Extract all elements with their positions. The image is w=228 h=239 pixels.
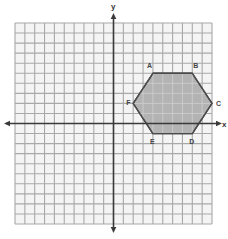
coordinate-plane: x y ABCDEF [0, 0, 228, 239]
vertex-label-d: D [189, 138, 194, 145]
y-axis-label: y [111, 2, 116, 11]
vertex-label-a: A [147, 62, 152, 69]
vertex-label-c: C [216, 100, 221, 107]
vertex-label-f: F [126, 99, 131, 106]
vertex-label-e: E [150, 138, 155, 145]
x-axis-label: x [222, 120, 227, 129]
vertex-label-b: B [193, 62, 198, 69]
y-axis-arrow-up-icon [111, 13, 117, 19]
y-axis-arrow-down-icon [111, 227, 117, 233]
x-axis-arrow-left-icon [4, 121, 10, 127]
